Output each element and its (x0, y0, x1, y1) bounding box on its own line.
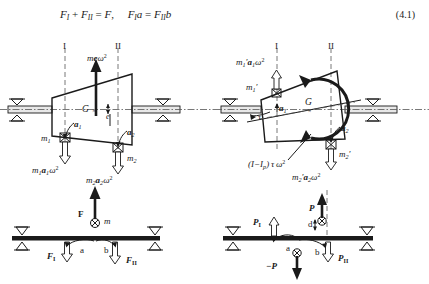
br-d-label: d (308, 220, 313, 229)
eq-plus: + (72, 8, 78, 20)
tl-a1-sub: 1 (79, 124, 82, 130)
tl-m2-sub: 2 (134, 158, 137, 164)
bl-F-label: F (78, 210, 84, 219)
br-PII-label: PII (338, 254, 348, 264)
bl-FII-sub: II (132, 260, 137, 266)
tr-plane-II-label: II (328, 42, 334, 51)
principal-axis (247, 100, 361, 122)
tr-f1-exp: 2 (261, 57, 264, 63)
bl-a-label: a (80, 246, 84, 255)
tr-cg-cross-glyph: × (308, 108, 311, 114)
tl-m2-label: m2 (127, 154, 137, 164)
tl-a2-label: a2 (127, 128, 135, 138)
mass2-force-arrow (113, 152, 124, 174)
tl-m1-label: m1 (41, 134, 51, 144)
moment-leader (288, 134, 311, 160)
couple-beam-svg (215, 190, 429, 284)
tr-tau-label: τ (258, 114, 261, 122)
panel-static-unbalance-rotor: G × (0, 42, 215, 190)
tl-omega-exp: 2 (104, 53, 107, 59)
br-negP-label: −P (266, 262, 277, 271)
static-beam-svg (0, 190, 215, 284)
tr-mass2-force-arrow (326, 149, 337, 170)
tl-plane-II-label: II (115, 42, 121, 51)
br-mass-upper (318, 217, 326, 225)
panel-couple-beam: P d a b PI −P PII (215, 190, 429, 284)
tl-unbalance-force-label: meω2 (87, 54, 107, 63)
eq-F-II-sub: II (88, 13, 93, 22)
bl-FII-label: FII (126, 256, 137, 266)
PI-force-arrow (269, 217, 279, 236)
cg-glyph: G (82, 104, 89, 114)
tl-a1-label: a1 (74, 120, 82, 130)
br-a-label: a (286, 244, 290, 253)
tr-cg-glyph: G (305, 97, 312, 107)
eq-equals-2: = (145, 8, 151, 20)
eq-F-II: F (81, 8, 88, 20)
br-P-label: P (309, 204, 315, 213)
cg-cross-glyph: × (92, 107, 96, 115)
tr-mom-exp: 2 (282, 159, 285, 165)
tr-m2-prime: ′ (349, 149, 351, 159)
tr-a1-sub: 1 (284, 108, 287, 114)
tr-m2-label: m2′ (339, 150, 351, 160)
tr-a2-label: a2 (341, 124, 349, 134)
tl-plane-I-label: I (63, 42, 66, 51)
a1-dimension (63, 123, 74, 139)
panel-couple-unbalance-rotor: G × (215, 42, 429, 190)
tr-force1-label: m1′a1ω2 (236, 58, 264, 68)
tr-plane-I-label: I (275, 42, 278, 51)
br-PI-label: PI (253, 218, 261, 228)
eq2-a: a (137, 8, 143, 20)
tl-f1-exp: 2 (55, 165, 58, 171)
eq-comma: , (111, 8, 114, 20)
tl-m1-sub: 1 (48, 138, 51, 144)
br-mass-lower (293, 249, 301, 257)
br-dim-b (299, 239, 327, 248)
bl-b-label: b (104, 246, 109, 255)
tr-a1-label: a1 (279, 104, 287, 114)
br-beam-bar (223, 236, 373, 241)
tr-moment-label: (I−Ip) τ ω2 (248, 160, 285, 170)
tl-force1-label: m1a1ω2 (32, 166, 58, 176)
tl-a2-sub: 2 (132, 132, 135, 138)
tr-m1-prime: ′ (256, 82, 258, 92)
tl-force2-label: m2a2ω2 (86, 176, 112, 186)
beam-mass (91, 219, 100, 228)
br-PII-sub: II (344, 258, 349, 264)
tr-a2-sub: 2 (346, 128, 349, 134)
equation-expression: FI + FII = F, FIa = FIIb (60, 8, 171, 22)
panel-static-beam: F m a b FI FII (0, 190, 215, 284)
eq2-b: b (166, 8, 172, 20)
bl-FI-label: FI (47, 252, 55, 262)
equation-number: (4.1) (396, 9, 415, 20)
F-force-arrow (90, 186, 101, 219)
tr-mass1-force-arrow (272, 70, 282, 89)
eq2-F-II: F (154, 8, 161, 20)
tl-f2-exp: 2 (109, 175, 112, 181)
figure-page: FI + FII = F, FIa = FIIb (4.1) (0, 0, 429, 284)
tr-m1-label: m1′ (246, 83, 258, 93)
eq-F-I: F (60, 8, 67, 20)
br-b-label: b (315, 248, 320, 257)
eq-equals-1: = (95, 8, 101, 20)
P-force-arrow (317, 193, 327, 218)
tr-mom-tau: τ (271, 159, 274, 169)
negP-force-arrow (292, 256, 302, 280)
br-PI-sub: I (259, 222, 261, 228)
tl-eccentricity-label: e (106, 113, 110, 121)
bl-m-label: m (104, 217, 111, 226)
equation-row: FI + FII = F, FIa = FIIb (4.1) (0, 8, 429, 30)
dim-d (313, 219, 317, 231)
eq-F-I-sub: I (67, 13, 70, 22)
tr-mom-close: ) (266, 159, 269, 169)
mass1-force-arrow (60, 142, 71, 164)
tr-f2-exp: 2 (317, 172, 320, 178)
tr-force2-label: m2′a2ω2 (292, 173, 320, 183)
bl-FI-sub: I (53, 256, 55, 262)
